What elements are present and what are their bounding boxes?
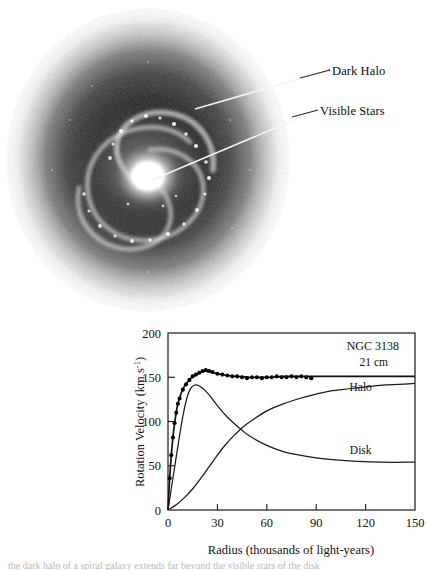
x-tick-label-60: 60: [261, 516, 274, 530]
data-point: [187, 378, 191, 382]
data-point: [250, 375, 254, 379]
data-point: [309, 376, 313, 380]
data-point: [275, 374, 279, 378]
y-axis-title-suffix: ): [133, 357, 147, 361]
plot-title: NGC 3138: [347, 339, 399, 353]
data-point: [173, 421, 177, 425]
x-axis-tick-labels: 0306090120150: [165, 516, 425, 530]
galaxy-photo-panel: Dark Halo Visible Stars: [0, 0, 428, 330]
data-point: [245, 376, 249, 380]
y-axis-title: Rotation Velocity (km s-1): [132, 357, 147, 487]
curve-label-halo: Halo: [350, 381, 373, 393]
x-tick-label-120: 120: [356, 516, 375, 530]
data-point: [210, 370, 214, 374]
annotation-label-dark-halo: Dark Halo: [332, 64, 385, 79]
y-tick-label-200: 200: [142, 327, 161, 341]
y-axis-title-main: Rotation Velocity (km s: [133, 368, 147, 487]
data-point: [294, 375, 298, 379]
data-point: [168, 476, 172, 480]
curve-label-disk: Disk: [350, 444, 372, 456]
data-point: [174, 411, 178, 415]
data-point: [289, 374, 293, 378]
data-point: [255, 375, 259, 379]
annotation-label-visible-stars: Visible Stars: [320, 104, 385, 119]
figure-caption-clipped: the dark halo of a spiral galaxy extends…: [8, 561, 420, 570]
data-point: [184, 382, 188, 386]
data-point: [285, 375, 289, 379]
data-point: [240, 375, 244, 379]
galaxy-image: [0, 0, 428, 330]
x-tick-label-30: 30: [211, 516, 224, 530]
data-point: [299, 374, 303, 378]
galaxy-core: [115, 146, 181, 206]
x-tick-label-0: 0: [165, 516, 171, 530]
x-tick-label-150: 150: [406, 516, 425, 530]
data-point: [304, 375, 308, 379]
data-point: [171, 435, 175, 439]
figure-root: Dark Halo Visible Stars 050100150200 030…: [0, 0, 428, 570]
data-point: [169, 453, 173, 457]
data-point: [260, 376, 264, 380]
data-point: [225, 373, 229, 377]
data-point: [230, 374, 234, 378]
rotation-curve-chart: 050100150200 0306090120150 21 cm Halo Di…: [0, 318, 428, 570]
y-tick-label-0: 0: [155, 504, 161, 518]
data-point: [215, 372, 219, 376]
data-point: [177, 396, 181, 400]
x-axis-title: Radius (thousands of light-years): [208, 543, 374, 557]
data-point: [235, 374, 239, 378]
data-point: [176, 402, 180, 406]
data-point: [181, 388, 185, 392]
y-axis-title-exponent: -1: [132, 361, 142, 368]
x-tick-label-90: 90: [310, 516, 323, 530]
data-point: [220, 373, 224, 377]
curve-label-21cm: 21 cm: [360, 356, 388, 368]
rotation-curve-plot-panel: 050100150200 0306090120150 21 cm Halo Di…: [0, 318, 428, 570]
data-point: [265, 375, 269, 379]
data-point: [270, 375, 274, 379]
data-point: [280, 375, 284, 379]
y-tick-label-50: 50: [149, 459, 162, 473]
